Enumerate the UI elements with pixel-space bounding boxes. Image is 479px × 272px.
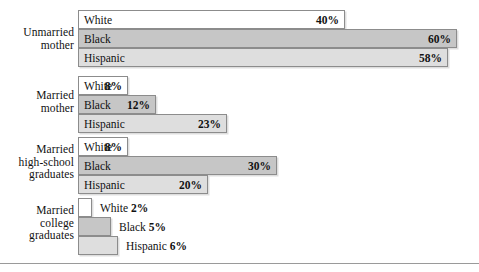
group-label-line: Unmarried [0,26,74,39]
bar-value-label: 30% [248,160,271,172]
bar-series-label: White [100,202,128,214]
bar-series-label: Hispanic [84,118,125,130]
bar-series-label: Black [84,33,111,45]
bar-value-label: 40% [316,14,339,26]
bar-series-label: Black [119,221,146,233]
bar-outside-label: Hispanic 6% [126,240,187,252]
bar-series-label: Hispanic [84,52,125,64]
group-label-unmarried-mother: Unmarried mother [0,26,74,51]
bar-value-label: 58% [419,52,442,64]
group-label-married-high-school-graduates: Married high-school graduates [0,143,74,181]
bar-white[interactable]: White 8% [78,76,128,95]
bar-hispanic[interactable]: Hispanic 23% [78,114,227,133]
bar-series-label: Black [84,99,111,111]
bar-series-label: Hispanic [84,179,125,191]
bar-black[interactable]: Black 12% [78,95,156,114]
bar-value-label: 12% [127,99,150,111]
group-label-line: college [0,217,74,230]
group-label-line: Married [0,204,74,217]
group-label-line: Married [0,89,74,102]
group-label-line: mother [0,39,74,52]
group-label-married-mother: Married mother [0,89,74,114]
bar-value-label: 6% [170,240,187,252]
bar-black[interactable] [78,217,111,236]
group-label-line: high-school [0,156,74,169]
bar-series-label: Hispanic [126,240,167,252]
group-label-line: mother [0,102,74,115]
bar-white[interactable]: White 8% [78,137,128,156]
bar-value-label: 20% [179,179,202,191]
bar-value-label: 23% [198,118,221,130]
bar-black[interactable]: Black 60% [78,29,457,48]
bar-value-label: 8% [105,141,122,153]
bar-hispanic[interactable]: Hispanic 20% [78,175,208,194]
bar-series-label: Black [84,160,111,172]
bottom-divider [0,263,479,264]
bar-black[interactable]: Black 30% [78,156,277,175]
bar-value-label: 2% [131,202,148,214]
bar-outside-label: Black 5% [119,221,166,233]
bar-value-label: 60% [428,33,451,45]
bar-hispanic[interactable] [78,236,118,255]
bar-value-label: 8% [105,80,122,92]
group-label-married-college-graduates: Married college graduates [0,204,74,242]
bar-white[interactable] [78,198,92,217]
bar-value-label: 5% [149,221,166,233]
group-label-line: Married [0,143,74,156]
bar-white[interactable]: White 40% [78,10,345,29]
bar-series-label: White [84,14,112,26]
bar-chart-figure: Unmarried mother White 40% Black 60% His… [0,0,479,272]
bar-hispanic[interactable]: Hispanic 58% [78,48,448,67]
group-label-line: graduates [0,168,74,181]
group-label-line: graduates [0,229,74,242]
bar-outside-label: White 2% [100,202,148,214]
